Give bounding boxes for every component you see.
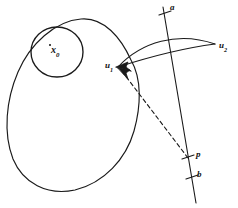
label-p: p bbox=[196, 150, 201, 159]
outer-region-outline bbox=[7, 19, 139, 192]
label-u2: u2 bbox=[219, 41, 227, 52]
figure-canvas: x0 a u2 u1 p b bbox=[0, 0, 238, 208]
label-u1-subscript: 1 bbox=[110, 67, 113, 73]
transversal-line-ab bbox=[163, 7, 196, 203]
label-u2-subscript: 2 bbox=[224, 47, 227, 53]
label-b: b bbox=[197, 170, 202, 179]
diagram-drawing bbox=[0, 0, 238, 208]
label-x0: x0 bbox=[51, 45, 59, 58]
label-x0-subscript: 0 bbox=[56, 51, 59, 58]
arrowhead-p-to-u1 bbox=[118, 68, 130, 79]
dashed-segment-p-u1 bbox=[121, 70, 188, 158]
label-a: a bbox=[170, 3, 175, 12]
label-u1: u1 bbox=[105, 61, 113, 72]
